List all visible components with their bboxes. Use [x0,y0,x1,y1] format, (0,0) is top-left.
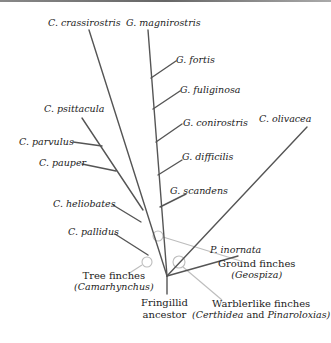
genus-and: and [247,309,265,320]
root-label-line1: Fringillid [141,297,188,309]
root-label-line2: ancestor [141,309,188,321]
branch-fuliginosa [153,91,180,109]
branch-heliobates [113,205,141,222]
branch-conirostris [156,124,182,142]
branch-psittacula [82,118,143,210]
genus-pinaroloxias: Pinaroloxias) [267,309,330,320]
group-ground-genus: (Geospiza) [218,270,295,281]
label-crassirostris: C. crassirostris [48,18,121,28]
group-warbler-genus: (Certhidea and Pinaroloxias) [192,310,330,321]
label-olivacea: C. olivacea [259,114,311,124]
branch-crassirostris [89,30,167,276]
label-difficilis: G. difficilis [182,152,234,162]
root-label: Fringillid ancestor [141,297,188,320]
warbler-finches-pointer [183,267,222,300]
label-heliobates: C. heliobates [53,199,116,209]
group-tree-finches: Tree finches (Camarhynchus) [74,270,154,292]
label-pauper: C. pauper [39,158,86,168]
label-inornata: P. inornata [210,245,261,255]
branch-difficilis [158,160,182,175]
label-magnirostris: G. magnirostris [126,18,201,28]
label-conirostris: G. conirostris [183,118,248,128]
branch-pallidus [115,234,148,255]
group-ground-finches: Ground finches (Geospiza) [218,258,295,280]
group-warbler-finches: Warblerlike finches (Certhidea and Pinar… [192,298,330,320]
branch-pauper [82,164,116,171]
label-scandens: G. scandens [170,186,228,196]
group-tree-name: Tree finches [74,270,154,282]
label-psittacula: C. psittacula [44,104,104,114]
tree-lines [0,0,331,343]
genus-certhidea: (Certhidea [192,309,243,320]
label-parvulus: C. parvulus [19,137,74,147]
group-tree-genus: (Camarhynchus) [74,282,154,293]
branch-fortis [151,61,176,78]
group-ground-name: Ground finches [218,258,295,270]
branch-magnirostris [148,30,167,276]
label-fuliginosa: G. fuliginosa [180,85,241,95]
tree-clade-marker [142,257,152,267]
label-pallidus: C. pallidus [68,227,119,237]
label-fortis: G. fortis [176,55,215,65]
phylogeny-figure: C. crassirostris G. magnirostris G. fort… [0,0,331,343]
branches [73,30,307,294]
